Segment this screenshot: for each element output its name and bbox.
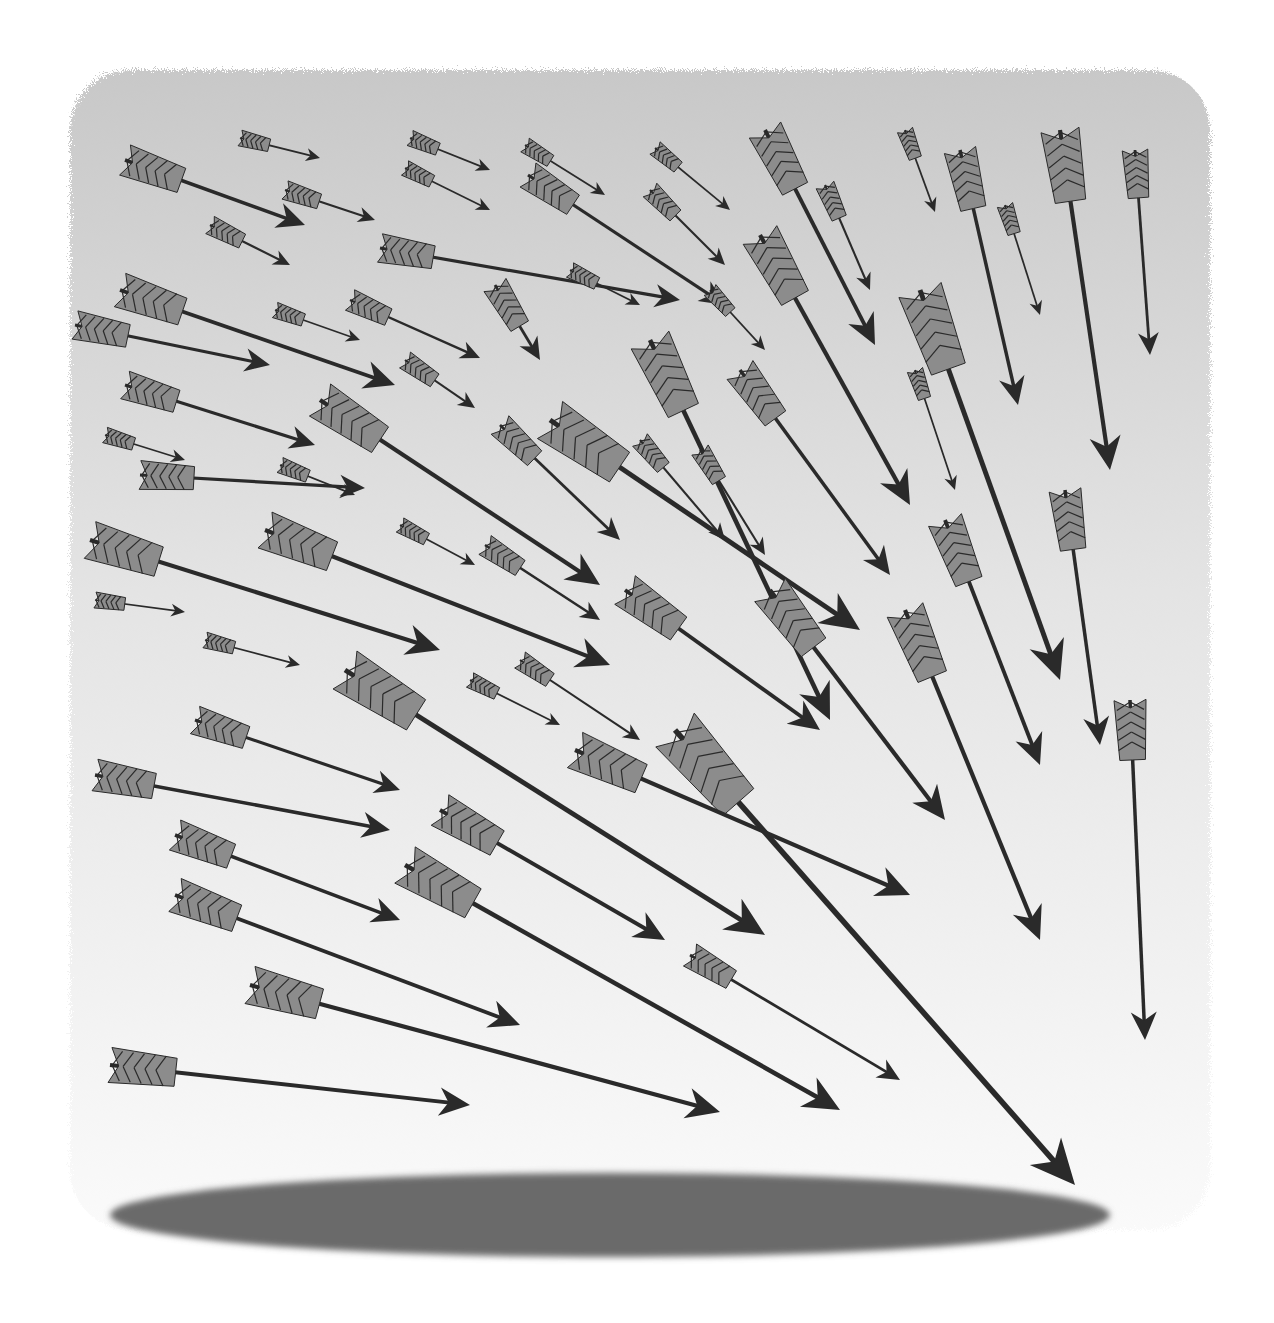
illustration-canvas	[0, 0, 1274, 1323]
ground-shadow	[110, 1173, 1110, 1257]
arrows-illustration	[0, 0, 1274, 1323]
